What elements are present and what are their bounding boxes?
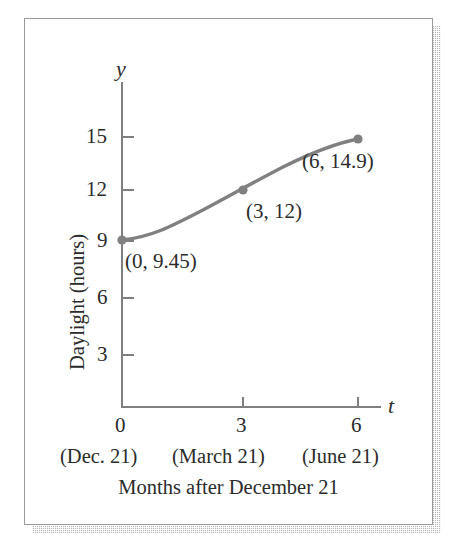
- data-point-0: [117, 235, 126, 244]
- chart-plot-area: y t 15 12 9 6 3 0 3 6 (Dec. 21) (March 2…: [24, 18, 433, 525]
- annotation-point-6: (6, 14.9): [302, 151, 374, 172]
- figure-page: y t 15 12 9 6 3 0 3 6 (Dec. 21) (March 2…: [0, 0, 457, 552]
- annotation-point-3: (3, 12): [246, 201, 302, 222]
- data-point-6: [353, 134, 362, 143]
- daylight-curve-svg: [24, 18, 433, 525]
- annotation-point-0: (0, 9.45): [125, 251, 197, 272]
- data-point-3: [238, 185, 247, 194]
